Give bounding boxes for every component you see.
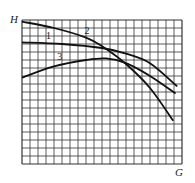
curve-label-1: 1	[46, 30, 51, 41]
curve-label-3: 3	[57, 51, 62, 62]
chart-grid	[22, 20, 182, 164]
curve-label-2: 2	[84, 25, 89, 36]
curve-2	[22, 22, 173, 121]
x-axis-label: G	[175, 166, 183, 178]
curve-1	[22, 42, 177, 86]
y-axis-label: H	[9, 13, 19, 25]
chart: 123 H G	[0, 0, 195, 183]
